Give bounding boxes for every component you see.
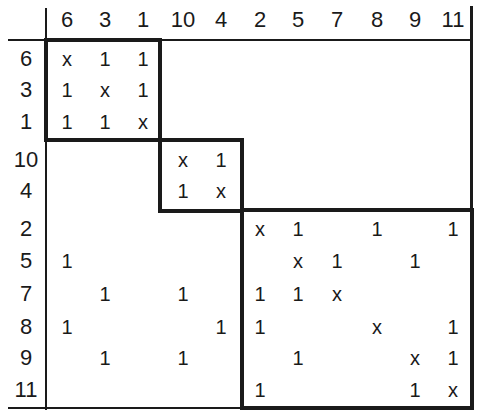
column-label: 7 (331, 9, 343, 31)
diagonal-mark: x (178, 150, 188, 170)
matrix-entry: 1 (447, 348, 458, 368)
matrix-entry: 1 (137, 49, 148, 69)
matrix-entry: 1 (331, 251, 342, 271)
matrix-entry: 1 (292, 219, 303, 239)
matrix-entry: 1 (409, 380, 420, 400)
diagonal-mark: x (448, 380, 458, 400)
matrix-entry: 1 (177, 348, 188, 368)
diagonal-mark: x (372, 317, 382, 337)
bottom-line (8, 407, 474, 409)
matrix-entry: 1 (292, 284, 303, 304)
column-label: 5 (292, 9, 304, 31)
matrix-entry: 1 (137, 80, 148, 100)
row-label: 2 (20, 218, 32, 240)
matrix-entry: 1 (177, 181, 188, 201)
matrix-entry: 1 (215, 150, 226, 170)
column-label: 8 (371, 9, 383, 31)
column-label: 1 (137, 9, 149, 31)
matrix-entry: 1 (61, 80, 72, 100)
row-label: 11 (15, 379, 38, 401)
matrix-entry: 1 (215, 317, 226, 337)
row-label: 7 (20, 283, 32, 305)
matrix-entry: 1 (254, 284, 265, 304)
matrix-entry: 1 (371, 219, 382, 239)
matrix-entry: 1 (61, 251, 72, 271)
column-label: 2 (254, 9, 266, 31)
diagonal-mark: x (62, 49, 72, 69)
matrix-entry: 1 (409, 251, 420, 271)
diagonal-mark: x (332, 284, 342, 304)
diagonal-mark: x (410, 348, 420, 368)
matrix-entry: 1 (99, 284, 110, 304)
matrix-entry: 1 (99, 49, 110, 69)
column-label: 9 (409, 9, 421, 31)
column-label: 4 (215, 9, 227, 31)
matrix-entry: 1 (99, 348, 110, 368)
row-label: 3 (20, 79, 32, 101)
matrix-entry: 1 (292, 348, 303, 368)
row-label: 5 (20, 250, 32, 272)
column-label: 3 (99, 9, 111, 31)
column-label: 11 (442, 9, 465, 31)
matrix-entry: 1 (447, 219, 458, 239)
row-label: 4 (20, 180, 32, 202)
diagonal-mark: x (138, 112, 148, 132)
row-label: 10 (14, 149, 38, 171)
matrix-entry: 1 (447, 317, 458, 337)
diagonal-mark: x (255, 219, 265, 239)
matrix-entry: 1 (254, 317, 265, 337)
block-2-outline (158, 138, 244, 213)
diagonal-mark: x (293, 251, 303, 271)
diagonal-mark: x (100, 80, 110, 100)
diagonal-mark: x (216, 181, 226, 201)
matrix-entry: 1 (99, 112, 110, 132)
right-border-line (470, 6, 473, 212)
column-label: 10 (171, 9, 195, 31)
block-3-outline (240, 208, 474, 410)
row-label: 6 (20, 48, 32, 70)
matrix-entry: 1 (61, 112, 72, 132)
row-label: 8 (20, 316, 32, 338)
row-label: 9 (20, 347, 32, 369)
matrix-entry: 1 (61, 317, 72, 337)
matrix-entry: 1 (254, 380, 265, 400)
matrix-entry: 1 (177, 284, 188, 304)
row-label: 1 (20, 111, 32, 133)
column-label: 6 (61, 9, 73, 31)
